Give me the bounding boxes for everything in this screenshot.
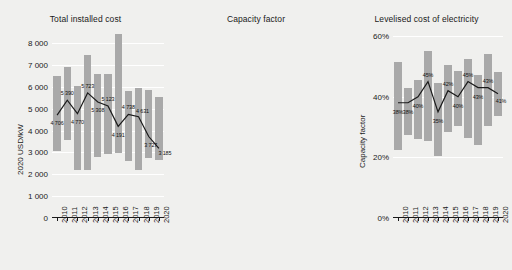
x-axis-tick-label: 2014 bbox=[101, 206, 110, 223]
x-axis-tick-label: 2016 bbox=[121, 206, 130, 223]
y-axis-tick-label: 3 000 bbox=[28, 148, 52, 157]
y-axis-tick-label: 4 000 bbox=[28, 126, 52, 135]
x-axis-tick-label: 2012 bbox=[80, 206, 89, 223]
x-axis-tick-label: 2018 bbox=[142, 206, 151, 223]
data-label: 5 723 bbox=[81, 83, 94, 89]
x-axis-tick-label: 2015 bbox=[111, 206, 120, 223]
y-axis-tick-label: 1 000 bbox=[28, 192, 52, 201]
data-label: 4 631 bbox=[136, 108, 149, 114]
data-label: 5 308 bbox=[91, 107, 104, 113]
data-label: 4 706 bbox=[51, 120, 64, 126]
x-axis-tick-label: 2013 bbox=[91, 206, 100, 223]
chart-panel-capacity-factor: Capacity factor Capacity factor 0%20%40%… bbox=[171, 0, 341, 270]
panel-title: Levelised cost of electricity bbox=[341, 14, 512, 24]
x-axis-tick-label: 2020 bbox=[162, 206, 171, 223]
y-axis-tick-label: 6 000 bbox=[28, 82, 52, 91]
x-axis-tick-label: 2011 bbox=[70, 207, 79, 223]
data-label: 4 770 bbox=[71, 119, 84, 125]
y-axis-tick-label: 5 000 bbox=[28, 104, 52, 113]
data-label: 4 191 bbox=[112, 132, 125, 138]
weighted-average-line bbox=[52, 30, 164, 218]
data-label: 5 390 bbox=[61, 90, 74, 96]
data-label: 3 727 bbox=[144, 142, 157, 148]
y-axis-tick-label: 2 000 bbox=[28, 170, 52, 179]
x-axis-tick-label: 2017 bbox=[131, 206, 140, 223]
panel-title: Capacity factor bbox=[171, 14, 341, 24]
y-axis-tick-label: 0 bbox=[44, 214, 52, 223]
data-label: 5 123 bbox=[102, 96, 115, 102]
chart-panel-levelised-cost-of-electricity: Levelised cost of electricity 2020 USD/k… bbox=[341, 0, 512, 270]
y-axis-label: 2020 USD/kW bbox=[16, 124, 25, 175]
x-axis-tick-label: 2019 bbox=[152, 206, 161, 223]
data-label: 3 185 bbox=[158, 150, 171, 156]
csp-cost-figure: Total installed cost 2020 USD/kW 01 0002… bbox=[0, 0, 512, 270]
panel-title: Total installed cost bbox=[0, 14, 171, 24]
y-axis-tick-label: 8 000 bbox=[28, 39, 52, 48]
chart-panel-total-installed-cost: Total installed cost 2020 USD/kW 01 0002… bbox=[0, 0, 171, 270]
x-axis-tick-label: 2010 bbox=[60, 206, 69, 223]
y-axis-tick-label: 7 000 bbox=[28, 60, 52, 69]
plot-area: 01 0002 0003 0004 0005 0006 0007 0008 00… bbox=[52, 30, 164, 218]
data-label: 4 738 bbox=[122, 104, 135, 110]
